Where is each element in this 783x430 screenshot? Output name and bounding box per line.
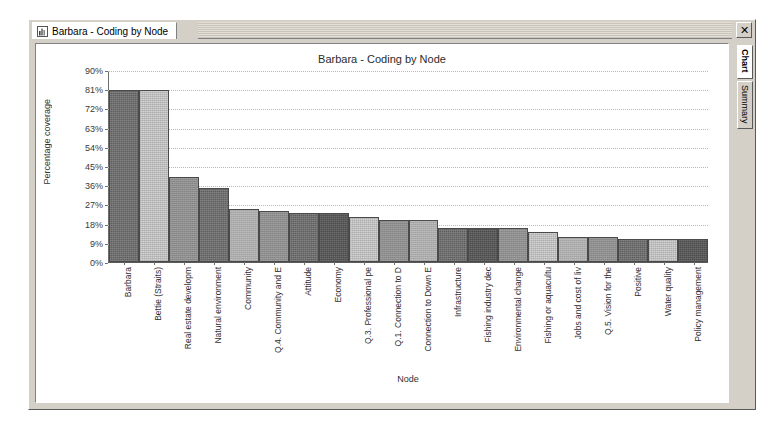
x-axis-tick-mark: [364, 262, 365, 265]
bar[interactable]: [319, 213, 349, 262]
bar[interactable]: [169, 177, 199, 262]
y-axis-tick-label: 45%: [85, 162, 103, 172]
x-axis-category-labels: BarbaraBettie (Straits)Real estate devel…: [109, 265, 709, 365]
x-axis-label-cell: Infrastructure: [439, 265, 469, 365]
x-axis-label-cell: Attitude: [289, 265, 319, 365]
bar[interactable]: [139, 90, 169, 262]
x-axis-tick-mark: [244, 262, 245, 265]
x-axis-tick-mark: [394, 262, 395, 265]
bar[interactable]: [678, 239, 708, 262]
x-axis-tick-mark: [184, 262, 185, 265]
tab-chart-label: Chart: [740, 49, 750, 73]
bar[interactable]: [558, 237, 588, 262]
y-axis-title-text: Percentage coverage: [42, 99, 52, 185]
x-axis-label-cell: Q.4. Community and E: [259, 265, 289, 365]
bar[interactable]: [528, 232, 558, 262]
tab-strip-filler: [198, 22, 732, 39]
bar-series: [109, 71, 708, 262]
y-axis-tick-label: 18%: [85, 220, 103, 230]
tab-summary[interactable]: Summary: [737, 81, 753, 130]
x-axis-tick-mark: [304, 262, 305, 265]
bar[interactable]: [229, 209, 259, 262]
bar[interactable]: [438, 228, 468, 262]
x-axis-tick-label: Q.1. Connection to D: [394, 267, 403, 346]
y-axis-tick-mark: [105, 225, 108, 226]
x-axis-label-cell: Real estate developm: [169, 265, 199, 365]
x-axis-tick-label: Connection to Down E: [424, 267, 433, 352]
x-axis-tick-mark: [274, 262, 275, 265]
chart-title: Barbara - Coding by Node: [36, 53, 728, 65]
y-axis-tick-label: 27%: [85, 200, 103, 210]
x-axis-tick-mark: [214, 262, 215, 265]
y-axis-title: Percentage coverage: [42, 99, 56, 269]
close-window-button[interactable]: ✕: [736, 22, 752, 38]
bar[interactable]: [259, 211, 289, 262]
y-axis-tick-mark: [105, 90, 108, 91]
x-axis-label-cell: Policy management: [679, 265, 709, 365]
bar[interactable]: [618, 239, 648, 262]
x-axis-label-cell: Bettie (Straits): [139, 265, 169, 365]
bar[interactable]: [379, 220, 409, 262]
bar[interactable]: [588, 237, 618, 262]
x-axis-label-cell: Q.3. Professional pe: [349, 265, 379, 365]
x-axis-tick-label: Water quality: [664, 267, 673, 316]
chart-canvas: Barbara - Coding by Node Percentage cove…: [35, 43, 729, 403]
x-axis-label-cell: Water quality: [649, 265, 679, 365]
x-axis-label-cell: Fishing industry dec: [469, 265, 499, 365]
x-axis-label-cell: Connection to Down E: [409, 265, 439, 365]
x-axis-tick-label: Jobs and cost of liv: [574, 267, 583, 339]
y-axis-tick-label: 9%: [90, 239, 103, 249]
x-axis-tick-label: Infrastructure: [454, 267, 463, 317]
plot-area: 0%9%18%27%36%45%54%63%72%81%90%: [108, 71, 708, 263]
bar[interactable]: [289, 213, 319, 262]
x-axis-tick-label: Fishing or aquacultu: [544, 267, 553, 344]
document-chart-icon: [37, 26, 48, 37]
bar[interactable]: [199, 188, 229, 262]
x-axis-tick-label: Community: [244, 267, 253, 310]
view-tab-list: Chart Summary: [737, 45, 753, 131]
chart-window: Barbara - Coding by Node ✕ Chart Summary…: [28, 19, 756, 410]
y-axis-tick-mark: [105, 109, 108, 110]
x-axis-line: [108, 262, 708, 263]
bar[interactable]: [109, 90, 139, 262]
x-axis-tick-label: Policy management: [694, 267, 703, 342]
document-tab-label: Barbara - Coding by Node: [52, 26, 168, 37]
y-axis-tick-mark: [105, 244, 108, 245]
y-axis-tick-mark: [105, 148, 108, 149]
x-axis-label-cell: Q.5. Vision for the: [589, 265, 619, 365]
bar[interactable]: [468, 228, 498, 262]
x-axis-tick-mark: [544, 262, 545, 265]
y-axis-tick-mark: [105, 205, 108, 206]
y-axis-tick-label: 0%: [90, 258, 103, 268]
x-axis-label-cell: Fishing or aquacultu: [529, 265, 559, 365]
x-axis-tick-mark: [664, 262, 665, 265]
y-axis-tick-mark: [105, 186, 108, 187]
y-axis-tick-label: 90%: [85, 66, 103, 76]
bar[interactable]: [349, 217, 379, 262]
bar[interactable]: [409, 220, 439, 262]
x-axis-tick-mark: [154, 262, 155, 265]
x-axis-tick-mark: [634, 262, 635, 265]
x-axis-tick-mark: [514, 262, 515, 265]
document-tab-barbara-coding-by-node[interactable]: Barbara - Coding by Node: [32, 22, 177, 39]
y-axis-tick-mark: [105, 167, 108, 168]
x-axis-tick-label: Attitude: [304, 267, 313, 296]
y-axis-tick-label: 72%: [85, 104, 103, 114]
tab-chart[interactable]: Chart: [737, 45, 753, 79]
x-axis-label-cell: Environmental change: [499, 265, 529, 365]
x-axis-label-cell: Barbara: [109, 265, 139, 365]
x-axis-tick-label: Economy: [334, 267, 343, 302]
x-axis-tick-mark: [334, 262, 335, 265]
x-axis-tick-label: Q.3. Professional pe: [364, 267, 373, 344]
x-axis-tick-label: Positive: [634, 267, 643, 297]
bar[interactable]: [648, 239, 678, 262]
tab-summary-label: Summary: [740, 85, 750, 124]
x-axis-label-cell: Natural environment: [199, 265, 229, 365]
x-axis-label-cell: Economy: [319, 265, 349, 365]
x-axis-tick-mark: [694, 262, 695, 265]
screenshot-root: Barbara - Coding by Node ✕ Chart Summary…: [0, 0, 783, 430]
bar[interactable]: [498, 228, 528, 262]
x-axis-tick-mark: [424, 262, 425, 265]
x-axis-title: Node: [108, 374, 708, 384]
x-axis-tick-label: Natural environment: [214, 267, 223, 344]
